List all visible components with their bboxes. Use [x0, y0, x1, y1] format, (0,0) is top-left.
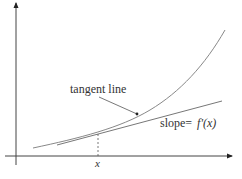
slope-expression: f'(x) — [197, 116, 216, 130]
x-tick-label: x — [94, 157, 100, 169]
function-curve — [33, 30, 225, 148]
tangent-line-diagram: tangent line slope= f'(x) x — [0, 0, 242, 179]
tangent-label-leader — [99, 97, 137, 114]
tangent-line-label: tangent line — [70, 82, 126, 96]
tangent-point — [136, 113, 139, 116]
slope-label: slope= f'(x) — [160, 116, 216, 130]
slope-prefix: slope= — [160, 116, 192, 130]
